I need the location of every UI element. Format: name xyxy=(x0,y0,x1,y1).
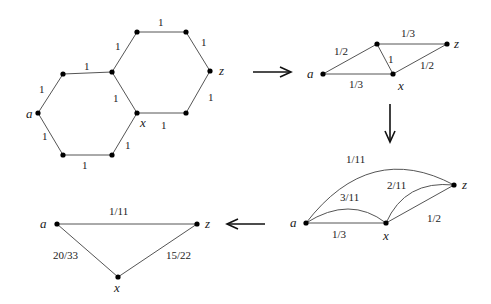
triangle-network: a x z 1/11 20/33 15/22 xyxy=(40,205,210,295)
edge-label: 1/2 xyxy=(420,59,434,71)
vertex-label-a: a xyxy=(26,106,33,121)
edge-label: 1 xyxy=(39,83,45,95)
left-arrow-icon xyxy=(227,219,265,229)
vertex-label-a: a xyxy=(307,66,314,81)
hexagon-nodes xyxy=(35,29,212,157)
edge-label: 20/33 xyxy=(53,249,79,261)
edge-label: 1/11 xyxy=(346,153,365,165)
vertex-label-z: z xyxy=(453,36,459,51)
edge-label: 1 xyxy=(161,119,167,131)
edge-label: 1 xyxy=(115,40,121,52)
edge-label: 1/3 xyxy=(401,27,416,39)
edge-label: 1/3 xyxy=(349,78,364,90)
reduced-network-2: a x z 1/11 3/11 2/11 1/2 1/3 xyxy=(290,153,467,243)
edge-label: 2/11 xyxy=(387,179,406,191)
reduced-network-1: a x z 1/2 1/3 1 1/3 1/2 xyxy=(307,27,459,93)
edge-label: 1 xyxy=(125,139,131,151)
edge-label: 1/3 xyxy=(332,228,347,240)
edge-label: 1 xyxy=(158,16,164,28)
edge-label: 1 xyxy=(201,36,207,48)
vertex-label-a: a xyxy=(40,216,47,231)
edge-label: 1 xyxy=(42,130,48,142)
edge-label: 1/2 xyxy=(427,212,441,224)
hexagon-network: a x z 1 1 1 1 1 1 1 1 1 1 1 xyxy=(26,16,224,171)
edge-label: 1 xyxy=(84,60,90,72)
down-arrow-icon xyxy=(385,104,395,142)
edge-label: 1 xyxy=(82,159,88,171)
edge-label: 1 xyxy=(113,92,119,104)
vertex-label-x: x xyxy=(397,78,404,93)
vertex-label-a: a xyxy=(290,215,297,230)
right-arrow-icon xyxy=(253,67,291,77)
edge-label: 3/11 xyxy=(340,191,359,203)
edge-label: 1 xyxy=(208,91,214,103)
edge-label: 1/11 xyxy=(109,205,128,217)
edge-label: 15/22 xyxy=(166,249,191,261)
vertex-label-z: z xyxy=(461,177,467,192)
vertex-label-z: z xyxy=(204,216,210,231)
vertex-label-x: x xyxy=(113,280,120,295)
edge-label: 1 xyxy=(388,53,394,65)
edge-label: 1/2 xyxy=(334,45,348,57)
vertex-label-x: x xyxy=(139,115,146,130)
network-reduction-diagram: a x z 1 1 1 1 1 1 1 1 1 1 1 a x z 1/2 1/… xyxy=(0,0,491,304)
vertex-label-z: z xyxy=(218,63,224,78)
vertex-label-x: x xyxy=(382,228,389,243)
